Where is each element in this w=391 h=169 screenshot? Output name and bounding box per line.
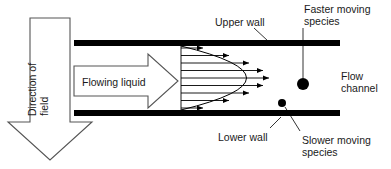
slower-moving-species-label: Slower moving species [302, 134, 371, 158]
direction-of-field-label: Direction of field [26, 44, 52, 116]
lower-wall-leader [270, 117, 281, 128]
upper-wall-bar [74, 40, 340, 46]
upper-wall-label: Upper wall [215, 16, 265, 28]
flow-channel-label: Flow channel [341, 70, 378, 94]
lower-wall-bar [74, 110, 340, 116]
flowing-liquid-label: Flowing liquid [82, 76, 146, 88]
upper-wall-leader [254, 28, 268, 41]
faster-moving-species-label: Faster moving species [304, 3, 371, 27]
ff-channel-diagram: Upper wall Faster moving species Flow ch… [0, 0, 391, 169]
lower-wall-label: Lower wall [218, 131, 268, 143]
faster-moving-species-dot [297, 78, 309, 90]
slower-moving-species-dot [278, 99, 286, 107]
